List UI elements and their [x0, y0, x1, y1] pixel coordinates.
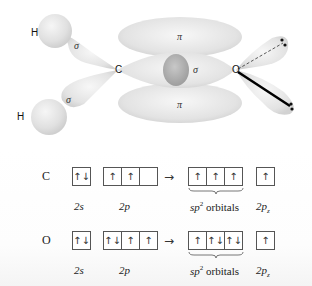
orbital-2s: ↑↓: [72, 167, 91, 186]
orbital-2p: ↑ ↑: [103, 167, 158, 186]
orbital-drawing: [0, 0, 312, 150]
sigma-label-ch-lower: σ: [66, 94, 71, 105]
hybridization-arrow: →: [164, 234, 174, 248]
orbital-box: ↑: [103, 167, 122, 186]
label-2p: 2p: [119, 200, 130, 212]
orbital-box: ↑↓: [224, 231, 243, 250]
overlap-region: [163, 54, 189, 86]
sp2-brace: [188, 251, 244, 259]
atom-h-lower: H: [17, 111, 24, 122]
orbital-box: ↑: [188, 231, 207, 250]
atom-h-upper: H: [31, 27, 38, 38]
orbital-2s: ↑↓: [72, 231, 91, 250]
orbital-2pz: ↑: [256, 231, 275, 250]
orbital-box: ↑↓: [206, 231, 225, 250]
label-2p: 2p: [119, 264, 130, 276]
element-label: O: [42, 233, 51, 248]
config-row-carbon: C ↑↓ ↑ ↑ → ↑ ↑ ↑ ↑ 2s 2p sp2 orbitals 2p…: [0, 167, 312, 195]
orbital-2p: ↑↓ ↑ ↑: [103, 231, 158, 250]
orbital-box: ↑↓: [72, 167, 91, 186]
orbital-box: [139, 167, 158, 186]
label-2pz: 2pz: [256, 200, 270, 215]
sp2-brace: [188, 187, 244, 195]
orbital-box: ↑: [121, 167, 140, 186]
orbital-sp2: ↑ ↑↓ ↑↓: [188, 231, 243, 250]
orbital-box: ↑: [139, 231, 158, 250]
label-sp2-orbitals: sp2 orbitals: [190, 264, 239, 277]
orbital-2pz: ↑: [256, 167, 275, 186]
orbital-box: ↑: [188, 167, 207, 186]
label-2s: 2s: [74, 200, 84, 212]
orbital-box: ↑: [256, 167, 275, 186]
label-sp2-orbitals: sp2 orbitals: [190, 200, 239, 213]
pi-label-upper: π: [177, 31, 182, 42]
o-lobe-upper: [236, 36, 288, 70]
sigma-label-ch-upper: σ: [74, 40, 79, 51]
orbital-box: ↑↓: [72, 231, 91, 250]
orbital-box: ↑: [256, 231, 275, 250]
orbital-box: ↑↓: [103, 231, 122, 250]
orbital-box: ↑: [224, 167, 243, 186]
element-label: C: [42, 169, 50, 184]
label-2s: 2s: [74, 264, 84, 276]
hybridization-arrow: →: [164, 170, 174, 184]
h-sphere-upper: [38, 14, 72, 48]
atom-o: O: [232, 64, 240, 75]
atom-c: C: [115, 64, 122, 75]
label-2pz: 2pz: [256, 264, 270, 279]
orbital-box: ↑: [121, 231, 140, 250]
config-row-oxygen: O ↑↓ ↑↓ ↑ ↑ → ↑ ↑↓ ↑↓ ↑ 2s 2p sp2 orbita…: [0, 231, 312, 259]
orbital-sp2: ↑ ↑ ↑: [188, 167, 243, 186]
pi-label-lower: π: [177, 99, 182, 110]
h-sphere-lower: [31, 99, 67, 135]
sigma-label-co: σ: [193, 64, 198, 75]
formaldehyde-orbital-diagram: H H C O σ σ σ π π: [0, 0, 312, 150]
orbital-box: ↑: [206, 167, 225, 186]
